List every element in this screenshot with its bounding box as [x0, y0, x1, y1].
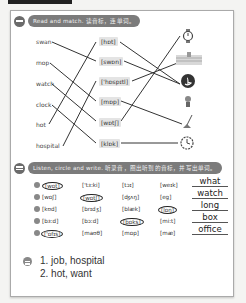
row-number: [34, 182, 40, 189]
phonetic-option: [ʤʌŋ]: [122, 194, 139, 200]
answer-line-2: 2. hot, want: [40, 267, 105, 280]
phonetic-hot: [hɒt]: [99, 37, 118, 46]
section-number-icon: [14, 163, 25, 174]
phonetic-option: [weɪk]: [160, 182, 178, 188]
section-2-title: Listen, circle and write. 听录音，圈出听到的音标，并写…: [28, 162, 222, 174]
row-number: [34, 218, 40, 224]
swan-icon: [181, 74, 195, 88]
match-lines: [0, 0, 246, 303]
phonetic-option: [blæk]: [122, 206, 140, 212]
phonetic-clock: [klɒk]: [99, 139, 120, 148]
phonetic-option: [bɒks]: [120, 218, 144, 226]
section-3-answers: 1. job, hospital 2. hot, want: [40, 254, 105, 280]
row-number: [34, 194, 40, 200]
row-number: [34, 206, 40, 212]
answer-3: long: [192, 201, 228, 211]
mop-icon: [181, 115, 195, 129]
phonetic-option: [mɒp]: [122, 230, 139, 236]
row-number: [34, 230, 40, 236]
phonetic-option: [wɒt]: [42, 182, 63, 190]
word-swan: swan: [36, 38, 52, 45]
phonetic-option: [tɔɪ]: [122, 182, 134, 188]
phonetic-swan: [swɒn]: [99, 57, 123, 66]
section-3-header: [23, 257, 32, 266]
phonetic-watch: [wɒtʃ]: [99, 118, 121, 127]
answer-4: box: [192, 213, 228, 223]
phonetic-hospital: ['hɒspɪtl]: [99, 77, 130, 86]
phonetic-option: [bɜ:d]: [42, 218, 58, 224]
phonetic-option: ['tɜ:ki]: [82, 182, 100, 188]
phonetic-mop: [mɒp]: [99, 97, 121, 106]
phonetic-option: [brɪdʒ]: [82, 206, 101, 212]
phonetic-option: [maʊθ]: [82, 230, 102, 236]
phonetic-option: [kʊd]: [42, 206, 57, 212]
answer-1: what: [192, 177, 228, 187]
wall-icon: [176, 52, 202, 66]
phonetic-option: [eg]: [160, 194, 171, 200]
phonetic-option: [mæ]: [160, 230, 175, 236]
word-hot: hot: [36, 121, 46, 128]
phonetic-option: [lɒŋ]: [158, 206, 177, 214]
phonetic-option: [wɒtʃ]: [80, 194, 103, 202]
girl-icon: [181, 95, 195, 109]
answer-line-1: 1. job, hospital: [40, 254, 105, 267]
answer-5: office: [192, 225, 228, 235]
word-mop: mop: [36, 59, 49, 66]
phonetic-option: [wɒʃ]: [42, 194, 56, 200]
word-watch: watch: [36, 80, 54, 87]
phonetic-option: [mi:t]: [160, 218, 175, 224]
word-clock: clock: [36, 101, 51, 108]
clock-icon: [180, 136, 194, 150]
phonetic-option: [bɔ:d]: [82, 218, 98, 224]
section-number-icon: [23, 257, 32, 266]
watch-icon: [181, 29, 195, 43]
answer-2: watch: [192, 189, 228, 199]
word-hospital: hospital: [36, 142, 60, 149]
section-2-header: Listen, circle and write. 听录音，圈出听到的音标，并写…: [14, 162, 222, 174]
